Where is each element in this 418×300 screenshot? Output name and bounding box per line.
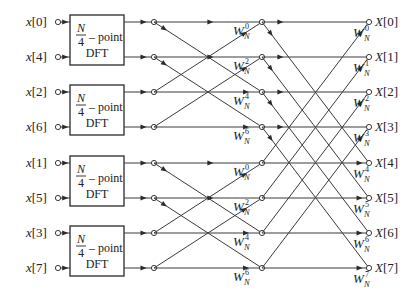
dft-label: DFT [86,257,109,271]
twiddle-stage2-6: W4N [233,233,251,252]
input-label-3: x[6] [25,119,47,134]
fraction-denominator: 4 [78,35,84,49]
output-label-6: X[6] [374,225,398,240]
svg-text:N: N [363,209,371,219]
svg-text:N: N [243,207,251,217]
arrowhead-icon [357,161,363,166]
arrowhead-icon [62,90,68,95]
svg-text:N: N [363,103,371,113]
input-label-5: x[5] [25,190,47,205]
input-node [55,265,60,270]
arrowhead-icon [62,266,68,271]
input-label-2: x[2] [25,84,47,99]
svg-text:N: N [243,136,251,146]
dft-label: DFT [86,187,109,201]
fft-diagram-canvas: x[0]x[4]x[2]x[6]x[1]x[5]x[3]x[7]N4– poin… [0,0,418,300]
svg-text:N: N [243,277,251,287]
output-label-4: X[4] [374,155,398,170]
fraction-denominator: 4 [78,176,84,190]
arrowhead-icon [161,201,167,206]
fraction-numerator: N [76,21,86,35]
quarter-dft-block: N4– pointDFT [70,15,124,65]
output-label-5: X[5] [374,190,398,205]
svg-text:N: N [243,66,251,76]
arrowhead-icon [267,100,273,106]
svg-text:N: N [363,33,371,43]
twiddle-stage2-1: W2N [233,57,251,76]
arrowhead-icon [141,266,147,271]
output-label-3: X[3] [374,119,398,134]
svg-text:2: 2 [245,198,249,207]
input-node [55,230,60,235]
svg-text:0: 0 [245,163,249,172]
input-node [55,54,60,59]
point-label: – point [88,171,123,185]
quarter-dft-block: N4– pointDFT [70,156,124,206]
svg-text:N: N [243,101,251,111]
svg-text:3: 3 [365,129,369,138]
output-label-1: X[1] [374,49,398,64]
svg-text:N: N [363,68,371,78]
input-label-4: x[1] [25,155,47,170]
arrowhead-icon [141,161,147,166]
point-label: – point [88,241,123,255]
arrowhead-icon [141,90,147,95]
quarter-dft-block: N4– pointDFT [70,85,124,135]
fraction-denominator: 4 [78,246,84,260]
svg-text:2: 2 [245,57,249,66]
arrowhead-icon [267,30,273,36]
svg-text:N: N [243,172,251,182]
twiddle-stage2-5: W2N [233,198,251,217]
svg-text:2: 2 [365,94,369,103]
arrowhead-icon [267,65,273,71]
arrowhead-icon [357,196,363,201]
twiddle-stage2-2: W4N [233,92,251,111]
arrowhead-icon [277,20,283,25]
arrowhead-icon [141,196,147,201]
fraction-numerator: N [76,162,86,176]
svg-text:6: 6 [245,127,249,136]
arrowhead-icon [267,135,273,141]
arrowhead-icon [62,231,68,236]
svg-text:0: 0 [365,24,369,33]
arrowhead-icon [357,231,363,236]
twiddle-stage2-4: W0N [233,163,251,182]
output-label-0: X[0] [374,14,398,29]
fft-flow-graph: x[0]x[4]x[2]x[6]x[1]x[5]x[3]x[7]N4– poin… [0,0,418,300]
arrowhead-icon [277,90,283,95]
svg-text:N: N [363,138,371,148]
input-label-1: x[4] [25,49,47,64]
twiddle-stage2-3: W6N [233,127,251,146]
svg-text:6: 6 [365,235,369,244]
svg-text:0: 0 [245,22,249,31]
output-label-2: X[2] [374,84,398,99]
dft-label: DFT [86,116,109,130]
arrowhead-icon [141,55,147,60]
arrowhead-icon [277,55,283,60]
fraction-denominator: 4 [78,105,84,119]
arrowhead-icon [161,60,167,65]
svg-text:N: N [363,279,371,289]
input-node [55,19,60,24]
fraction-numerator: N [76,91,86,105]
svg-text:N: N [363,174,371,184]
svg-text:4: 4 [245,92,249,101]
output-label-7: X[7] [374,260,398,275]
arrowhead-icon [62,196,68,201]
svg-text:4: 4 [365,165,369,174]
svg-text:5: 5 [365,200,369,209]
svg-text:N: N [243,242,251,252]
arrowhead-icon [207,161,213,166]
arrowhead-icon [161,25,167,30]
svg-text:7: 7 [365,270,369,279]
svg-text:4: 4 [245,233,249,242]
arrowhead-icon [141,20,147,25]
arrowhead-icon [62,20,68,25]
svg-text:6: 6 [245,268,249,277]
svg-text:N: N [363,244,371,254]
input-label-6: x[3] [25,225,47,240]
arrowhead-icon [62,55,68,60]
dft-label: DFT [86,46,109,60]
input-node [55,195,60,200]
point-label: – point [88,100,123,114]
